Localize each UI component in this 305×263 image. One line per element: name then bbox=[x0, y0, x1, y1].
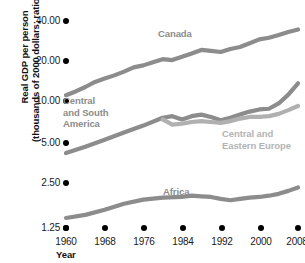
x-tick-dot-2008 bbox=[295, 225, 301, 231]
x-axis-title: Year bbox=[56, 249, 76, 260]
series-label-csa-line3: America bbox=[63, 118, 109, 130]
chart-container: Real GDP per person (thousands of 2000 d… bbox=[0, 0, 305, 263]
x-tick-dot-1960 bbox=[63, 225, 69, 231]
x-tick-label-1960: 1960 bbox=[48, 236, 84, 248]
series-label-cee-line1: Central and bbox=[222, 128, 291, 140]
series-label-csa-line2: and South bbox=[63, 107, 109, 119]
x-tick-dot-1976 bbox=[141, 225, 147, 231]
series-label-canada: Canada bbox=[158, 28, 192, 40]
series-label-central-south-america: Central and South America bbox=[63, 95, 109, 130]
x-tick-label-2000: 2000 bbox=[243, 236, 279, 248]
series-label-csa-line1: Central bbox=[63, 95, 109, 107]
x-tick-dot-2000 bbox=[258, 225, 264, 231]
x-tick-label-1992: 1992 bbox=[204, 236, 240, 248]
x-tick-label-2008: 2008 bbox=[279, 236, 305, 248]
series-label-africa: Africa bbox=[163, 186, 189, 198]
series-line-central-and-eastern-europe bbox=[163, 106, 298, 125]
x-tick-label-1968: 1968 bbox=[87, 236, 123, 248]
series-label-africa-line1: Africa bbox=[163, 186, 189, 197]
x-tick-dot-1992 bbox=[219, 225, 225, 231]
x-tick-label-1984: 1984 bbox=[165, 236, 201, 248]
x-tick-dot-1984 bbox=[180, 225, 186, 231]
x-tick-dot-1968 bbox=[102, 225, 108, 231]
x-tick-label-1976: 1976 bbox=[126, 236, 162, 248]
series-label-central-eastern-europe: Central and Eastern Europe bbox=[222, 128, 291, 151]
series-label-cee-line2: Eastern Europe bbox=[222, 140, 291, 152]
series-label-canada-line1: Canada bbox=[158, 28, 192, 39]
